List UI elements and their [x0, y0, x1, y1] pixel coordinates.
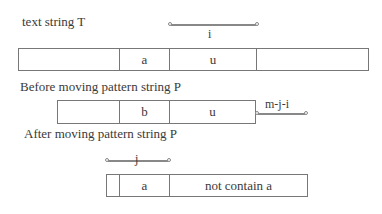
- pattern-cell: [107, 175, 120, 196]
- pattern-cell: u: [170, 101, 255, 123]
- pattern-cell: b: [120, 101, 170, 123]
- text-string-label: text string T: [22, 14, 85, 30]
- i-arrow: [171, 24, 256, 26]
- after-label: After moving pattern string P: [24, 126, 177, 142]
- pattern-cell: not contain a: [170, 175, 307, 196]
- pattern-cell: a: [120, 175, 170, 196]
- before-label: Before moving pattern string P: [20, 79, 181, 95]
- text-cell: [257, 49, 368, 70]
- after-pattern-row: a not contain a: [106, 174, 308, 197]
- text-cell: a: [120, 49, 170, 70]
- text-cell: u: [170, 49, 257, 70]
- i-arrow-label: i: [208, 27, 211, 42]
- text-cell: [19, 49, 120, 70]
- before-pattern-row: b u: [57, 100, 256, 124]
- pattern-cell: [58, 101, 120, 123]
- j-arrow-label: j: [135, 152, 138, 167]
- mji-arrow: [258, 113, 305, 115]
- text-string-row: a u: [18, 48, 369, 71]
- mji-arrow-label: m-j-i: [265, 97, 289, 112]
